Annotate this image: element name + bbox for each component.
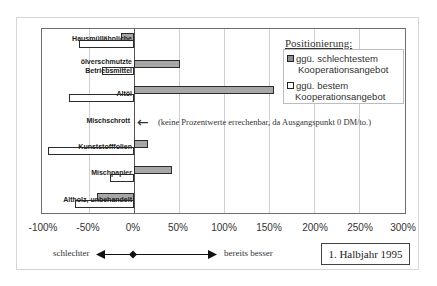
x-tick: 300% bbox=[390, 222, 416, 233]
x-tick: -100% bbox=[29, 222, 58, 233]
x-tick: 0% bbox=[126, 222, 140, 233]
category-label: ölverschmutzte bbox=[81, 58, 132, 66]
category-label: Mischpapier bbox=[91, 169, 132, 177]
legend-item-worst-line2: Kooperationsangebot bbox=[298, 64, 388, 75]
mischschrott-note: (keine Prozentwerte errechenbar, da Ausg… bbox=[158, 117, 371, 127]
legend: ggü. schlechtestem Kooperationsangebot g… bbox=[283, 49, 404, 104]
bar-kunststoff-worst bbox=[134, 140, 148, 148]
legend-item-best: ggü. bestem bbox=[287, 80, 348, 91]
category-label: Mischschrott bbox=[86, 117, 130, 125]
direction-arrows-icon bbox=[96, 249, 220, 260]
legend-title: Positionierung: bbox=[285, 37, 352, 49]
category-label: Betriebsmittel bbox=[85, 67, 132, 75]
period-box: 1. Halbjahr 1995 bbox=[321, 243, 410, 265]
x-tick: 150% bbox=[256, 222, 282, 233]
x-tick: 250% bbox=[347, 222, 373, 233]
bar-altoel-worst bbox=[134, 86, 274, 94]
better-label: bereits besser bbox=[224, 248, 273, 258]
legend-item-best-line2: Kooperationsangebot bbox=[295, 91, 385, 102]
white-swatch-icon bbox=[287, 82, 294, 89]
category-label: Altöl bbox=[116, 90, 132, 98]
category-label: Kunststofffolien bbox=[78, 143, 132, 151]
x-tick: -50% bbox=[76, 222, 99, 233]
bar-mischpapier-worst bbox=[134, 166, 172, 174]
bar-oelverschmutzt-worst bbox=[134, 60, 180, 68]
x-tick: 100% bbox=[211, 222, 237, 233]
category-label: Altholz, unbehandelt bbox=[63, 196, 132, 204]
x-tick: 200% bbox=[302, 222, 328, 233]
left-arrow-icon: ← bbox=[137, 114, 149, 130]
gray-swatch-icon bbox=[287, 55, 294, 62]
x-tick: 50% bbox=[168, 222, 188, 233]
legend-item-worst: ggü. schlechtestem bbox=[287, 53, 378, 64]
worse-label: schlechter bbox=[53, 248, 89, 258]
category-label: Hausmüllähnliche bbox=[72, 35, 132, 43]
zero-axis bbox=[134, 29, 135, 213]
